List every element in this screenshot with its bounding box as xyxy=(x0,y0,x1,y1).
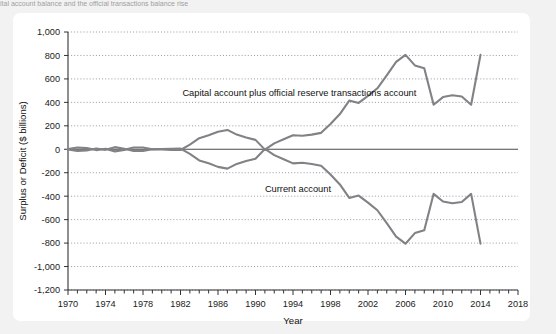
x-axis-tick-label: 1994 xyxy=(283,299,303,309)
balance-of-payments-line-chart: 1,0008006004002000-200-400-600-800-1,000… xyxy=(0,0,556,334)
y-axis-tick-label: 200 xyxy=(45,121,60,131)
x-axis-tick-label: 1990 xyxy=(245,299,265,309)
y-axis-tick-label: -200 xyxy=(42,168,60,178)
y-axis-tick-label: -1,200 xyxy=(34,285,60,295)
y-axis-tick-label: -400 xyxy=(42,192,60,202)
data-series-line xyxy=(68,55,481,152)
current-account-label: Current account xyxy=(265,184,332,194)
x-axis-ticks-group xyxy=(68,290,518,295)
x-axis-tick-label: 2010 xyxy=(433,299,453,309)
x-axis-tick-label: 2018 xyxy=(508,299,528,309)
x-axis-tick-label: 1970 xyxy=(58,299,78,309)
x-axis-tick-label: 1986 xyxy=(208,299,228,309)
x-axis-tick-label: 1998 xyxy=(320,299,340,309)
x-axis-title: Year xyxy=(283,315,303,326)
y-axis-tick-label: 800 xyxy=(45,51,60,61)
x-axis-tick-label: 1982 xyxy=(170,299,190,309)
x-axis-tick-labels-group: 1970197419781982198619901994199820022006… xyxy=(58,299,528,309)
x-axis-tick-label: 1974 xyxy=(95,299,115,309)
capital-account-label: Capital account plus official reserve tr… xyxy=(182,88,416,98)
y-axis-tick-label: -600 xyxy=(42,215,60,225)
y-axis-tick-label: 1,000 xyxy=(37,27,60,37)
y-axis-tick-label: 400 xyxy=(45,98,60,108)
y-axis-ticks-group xyxy=(64,32,68,290)
chart-container: 1,0008006004002000-200-400-600-800-1,000… xyxy=(0,0,556,334)
y-axis-tick-labels-group: 1,0008006004002000-200-400-600-800-1,000… xyxy=(34,27,60,295)
series-annotations-group: Capital account plus official reserve tr… xyxy=(182,88,416,194)
x-axis-tick-label: 2014 xyxy=(470,299,490,309)
x-axis-tick-label: 2006 xyxy=(395,299,415,309)
y-axis-tick-label: -800 xyxy=(42,238,60,248)
data-series-line xyxy=(68,147,481,244)
x-axis-tick-label: 2002 xyxy=(358,299,378,309)
y-axis-tick-label: -1,000 xyxy=(34,262,60,272)
y-axis-tick-label: 600 xyxy=(45,74,60,84)
x-axis-tick-label: 1978 xyxy=(133,299,153,309)
y-axis-title: Surplus or Deficit ($ billions) xyxy=(17,101,28,220)
gridlines-group xyxy=(68,32,518,290)
y-axis-tick-label: 0 xyxy=(55,145,60,155)
